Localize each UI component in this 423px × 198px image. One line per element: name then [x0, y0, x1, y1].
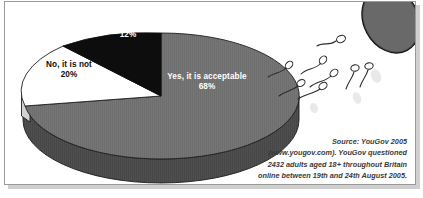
sperm-icon-7 [346, 64, 360, 89]
source-line-4: online between 19th and 24th August 2005… [195, 170, 407, 181]
background-blobs [309, 68, 384, 114]
source-line-2: (www.yougov.com). YouGov questioned [195, 147, 407, 158]
source-line-1: Source: YouGov 2005 [195, 136, 407, 147]
source-line-3: 2432 adults aged 18+ throughout Britain [195, 159, 407, 170]
sperm-icon-3 [310, 68, 339, 87]
sperm-icon-4 [298, 81, 328, 99]
egg-cell-icon [351, 2, 416, 63]
sperm-icon-2 [301, 55, 328, 74]
chart-frame: Don't know 12% No, it is not 20% Yes, it… [4, 1, 416, 185]
sperm-icon-1 [317, 34, 347, 46]
yougov-pie-chart-figure: Don't know 12% No, it is not 20% Yes, it… [0, 0, 423, 198]
source-caption: Source: YouGov 2005 (www.yougov.com). Yo… [195, 136, 407, 181]
